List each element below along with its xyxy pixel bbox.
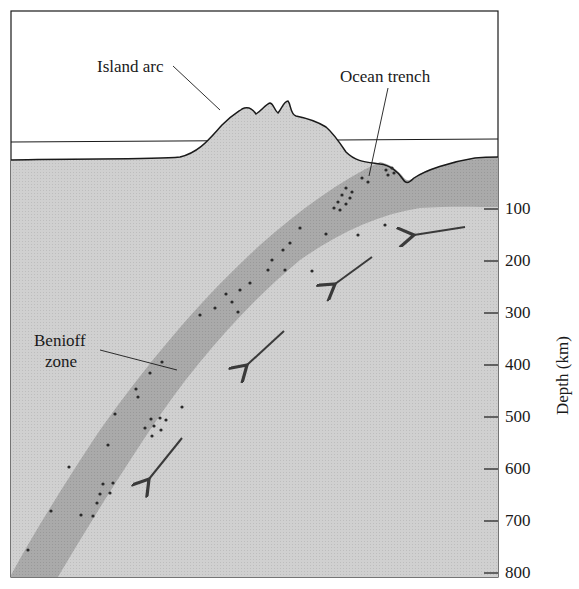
depth-tick-400: 400: [505, 355, 531, 375]
ocean-trench-label: Ocean trench: [340, 66, 430, 87]
depth-tick-800: 800: [505, 563, 531, 583]
depth-tick-700: 700: [505, 511, 531, 531]
benioff-zone-label-line2: zone: [45, 351, 77, 372]
subduction-diagram: [0, 0, 579, 589]
depth-tick-300: 300: [505, 303, 531, 323]
depth-tick-600: 600: [505, 459, 531, 479]
depth-axis-title: Depth (km): [553, 336, 573, 415]
depth-tick-500: 500: [505, 407, 531, 427]
depth-tick-200: 200: [505, 251, 531, 271]
benioff-zone-label-line1: Benioff: [34, 330, 86, 351]
island-arc-label: Island arc: [97, 56, 164, 77]
depth-tick-100: 100: [505, 199, 531, 219]
